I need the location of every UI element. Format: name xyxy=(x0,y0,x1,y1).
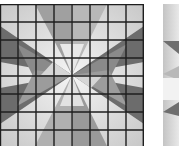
star-quilt-diagram xyxy=(0,4,144,146)
star-partial-diagram xyxy=(163,4,179,146)
grid-star-panel xyxy=(0,4,144,146)
plain-star-panel xyxy=(163,4,179,146)
